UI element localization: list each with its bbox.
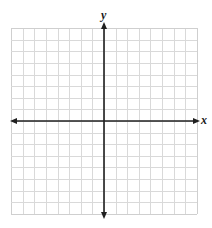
y-axis-down-arrow-icon — [101, 212, 107, 219]
coordinate-plane — [0, 0, 212, 228]
y-axis-up-arrow-icon — [101, 22, 107, 29]
x-axis-right-arrow-icon — [193, 118, 200, 124]
y-axis-label: y — [101, 9, 106, 21]
x-axis-label: x — [201, 114, 207, 126]
